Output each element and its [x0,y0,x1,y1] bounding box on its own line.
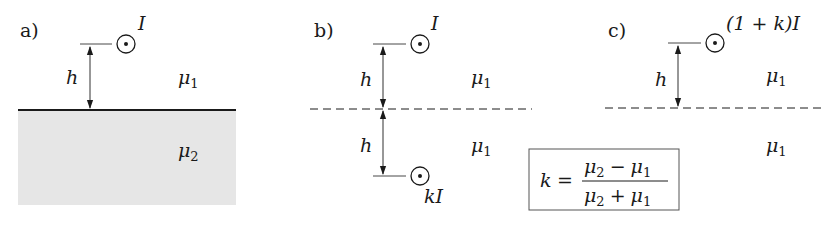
medium-1-label: μ1 [178,66,199,91]
distance-label-bottom: h [360,134,372,156]
formula-numerator: μ2−μ1 [584,155,651,180]
formula-lhs: k [540,169,552,191]
current-out-of-page-icon [117,35,135,53]
distance-label-top: h [360,68,372,90]
medium-upper-label: μ1 [766,64,787,89]
panel-b: b) h h I kI μ1 μ1 [310,12,532,207]
medium-lower-label: μ1 [766,134,787,159]
panel-b-label: b) [314,19,334,41]
image-method-diagram: a) h I μ1 μ2 b) h h I kI [0,0,837,228]
panel-a: a) h I μ1 μ2 [18,12,236,205]
medium-2-region [18,110,236,205]
distance-label: h [655,68,667,90]
image-current-label: kI [424,185,444,207]
current-out-of-page-icon [411,35,429,53]
panel-c-label: c) [608,19,626,41]
panel-c: c) h (1 + k)I μ1 μ1 [605,12,825,159]
formula-equals: = [557,169,573,191]
current-label: (1 + k)I [726,12,800,34]
current-out-of-page-icon [706,34,724,52]
formula-denominator: μ2+μ1 [584,184,651,209]
medium-upper-label: μ1 [471,66,492,91]
medium-lower-label: μ1 [471,134,492,159]
k-definition-box: k = μ2−μ1 μ2+μ1 [529,149,679,210]
distance-label: h [66,66,78,88]
image-current-out-of-page-icon [411,167,429,185]
panel-a-label: a) [20,19,39,41]
current-label: I [430,12,439,34]
current-label: I [137,12,146,34]
